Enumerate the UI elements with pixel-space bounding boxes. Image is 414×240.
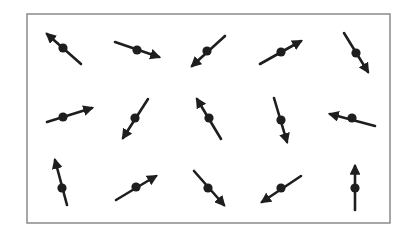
arrow-center-dot bbox=[276, 47, 285, 56]
arrow-center-dot bbox=[203, 183, 212, 192]
arrow-center-dot bbox=[351, 48, 360, 57]
arrow-center-dot bbox=[130, 113, 139, 122]
arrow-center-dot bbox=[58, 112, 67, 121]
arrow-center-dot bbox=[132, 45, 141, 54]
arrow-center-dot bbox=[204, 113, 213, 122]
arrow-center-dot bbox=[350, 183, 359, 192]
arrow-center-dot bbox=[347, 113, 356, 122]
arrow-center-dot bbox=[58, 43, 67, 52]
arrow-center-dot bbox=[131, 182, 140, 191]
arrow-center-dot bbox=[202, 46, 211, 55]
arrow-center-dot bbox=[276, 115, 285, 124]
arrow-center-dot bbox=[276, 183, 285, 192]
dipole-diagram bbox=[0, 0, 414, 240]
arrow-center-dot bbox=[57, 183, 66, 192]
